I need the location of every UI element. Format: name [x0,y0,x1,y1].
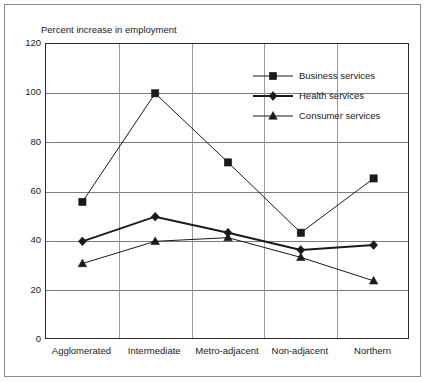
x-tick-label: Intermediate [118,345,191,356]
chart-figure: Percent increase in employment 020406080… [4,4,421,377]
y-tick-label: 80 [7,137,41,147]
y-tick-label: 40 [7,235,41,245]
data-point-marker [224,159,231,166]
data-point-marker [370,241,378,250]
y-tick-label: 120 [7,38,41,48]
x-tick-label: Metro-adjacent [191,345,264,356]
legend-item: Business services [251,66,401,86]
y-tick-label: 60 [7,186,41,196]
y-tick-label: 100 [7,87,41,97]
chart-title: Percent increase in employment [41,24,177,35]
data-point-marker [370,175,377,182]
x-tick-label: Non-adjacent [263,345,336,356]
legend-marker-triangle-icon [251,106,295,126]
x-tick-label: Agglomerated [45,345,118,356]
y-tick-label: 20 [7,285,41,295]
legend-marker-square-icon [251,66,295,86]
y-tick-label: 0 [7,334,41,344]
x-tick-label: Northern [336,345,409,356]
legend-item: Health services [251,86,401,106]
legend-label: Consumer services [299,110,380,122]
plot-area: Business servicesHealth servicesConsumer… [45,43,409,339]
data-point-marker [152,90,159,97]
data-point-marker [151,212,159,221]
series-consumer-services [78,233,378,284]
data-point-marker [79,198,86,205]
x-axis-tick-labels: AgglomeratedIntermediateMetro-adjacentNo… [45,345,409,363]
legend-marker-diamond-icon [251,86,295,106]
legend-item: Consumer services [251,106,401,126]
legend-label: Business services [299,70,375,82]
series-line [82,238,373,281]
data-point-marker [78,237,86,246]
y-axis-tick-labels: 020406080100120 [5,43,41,339]
legend-label: Health services [299,90,364,102]
chart-legend: Business servicesHealth servicesConsumer… [251,66,401,126]
data-point-marker [297,229,304,236]
